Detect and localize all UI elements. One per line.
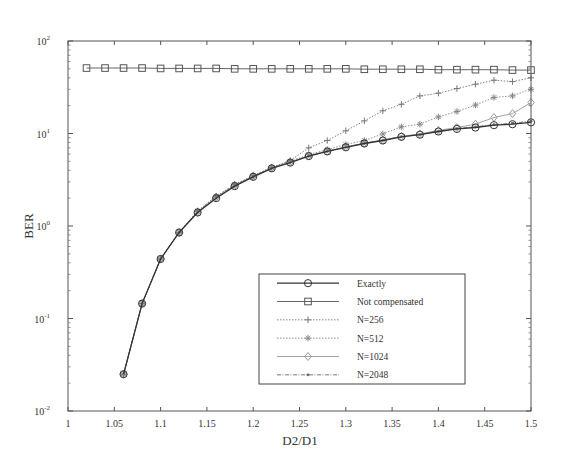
plus-marker	[306, 145, 312, 151]
ber-chart: 11.051.11.151.21.251.31.351.41.451.51021…	[0, 0, 565, 471]
x-tick-label: 1	[66, 418, 71, 429]
x-tick-label: 1.05	[106, 418, 124, 429]
legend-label: Exactly	[357, 279, 386, 289]
x-tick-label: 1.15	[198, 418, 216, 429]
plus-marker	[491, 77, 497, 83]
legend-box	[259, 274, 465, 384]
legend: ExactlyNot compensatedN=256N=512N=1024N=…	[259, 274, 465, 384]
x-tick-label: 1.1	[154, 418, 167, 429]
asterisk-marker	[454, 108, 460, 114]
legend-label: N=512	[357, 334, 384, 344]
plus-marker	[472, 81, 478, 87]
asterisk-marker	[398, 124, 404, 130]
asterisk-marker	[509, 93, 515, 99]
x-tick-label: 1.2	[247, 418, 260, 429]
plus-marker	[435, 90, 441, 96]
legend-label: N=256	[357, 315, 384, 325]
legend-label: N=2048	[357, 370, 388, 380]
x-tick-label: 1.5	[525, 418, 538, 429]
legend-label: N=1024	[357, 352, 388, 362]
plus-marker	[380, 108, 386, 114]
y-axis-label: BER	[21, 213, 36, 239]
dot-marker	[307, 373, 310, 376]
asterisk-marker	[380, 131, 386, 137]
series-line	[87, 68, 532, 70]
y-tick-label: 101	[37, 127, 51, 140]
plus-marker	[398, 101, 404, 107]
plus-marker	[343, 128, 349, 134]
asterisk-marker	[472, 102, 478, 108]
y-tick-label: 10-2	[34, 404, 50, 417]
plus-marker	[454, 85, 460, 91]
x-tick-label: 1.25	[291, 418, 309, 429]
y-tick-label: 102	[37, 34, 51, 47]
legend-label: Not compensated	[357, 297, 423, 307]
chart-canvas: 11.051.11.151.21.251.31.351.41.451.51021…	[0, 0, 565, 471]
asterisk-marker	[435, 114, 441, 120]
plus-marker	[417, 93, 423, 99]
asterisk-marker	[305, 335, 311, 341]
y-tick-label: 10-1	[34, 312, 50, 325]
asterisk-marker	[491, 94, 497, 100]
plus-marker	[509, 78, 515, 84]
x-tick-label: 1.45	[476, 418, 494, 429]
plus-marker	[361, 118, 367, 124]
series-not-compensated	[83, 65, 534, 74]
x-axis-label: D2/D1	[282, 433, 317, 448]
x-tick-label: 1.4	[432, 418, 445, 429]
x-tick-label: 1.3	[340, 418, 353, 429]
plus-marker	[324, 137, 330, 143]
x-tick-label: 1.35	[383, 418, 401, 429]
y-tick-label: 100	[37, 219, 51, 232]
asterisk-marker	[417, 121, 423, 127]
